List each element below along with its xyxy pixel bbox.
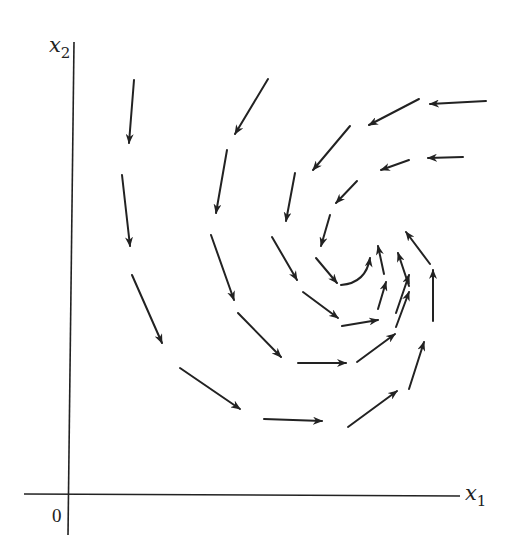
vector-arrow (272, 237, 297, 280)
vector-arrow (341, 258, 370, 285)
vector-arrow (238, 313, 281, 357)
vector-arrow (378, 246, 384, 274)
vector-arrow (378, 282, 386, 309)
vector-arrow (369, 99, 419, 125)
vector-arrow (357, 334, 395, 362)
vector-arrow (313, 126, 350, 170)
origin-label: 0 (52, 505, 62, 526)
vector-arrow (428, 157, 463, 158)
vector-arrow (316, 258, 337, 283)
vector-arrow (303, 292, 338, 318)
vector-arrow (180, 368, 240, 409)
vector-arrow (264, 419, 322, 421)
vector-arrow (216, 150, 227, 213)
vector-arrow (286, 173, 295, 221)
vector-field (122, 79, 486, 427)
phase-portrait: x2 x1 0 (0, 0, 512, 553)
vector-arrow (409, 342, 424, 389)
y-axis-label: x2 (49, 33, 70, 62)
vector-arrow (132, 275, 162, 343)
vector-arrow (342, 320, 378, 326)
vector-arrow (336, 181, 357, 203)
x-axis-label: x1 (465, 481, 486, 510)
vector-arrow (129, 80, 134, 143)
vector-arrow (211, 235, 234, 300)
vector-arrow (381, 160, 409, 170)
vector-arrow (406, 232, 430, 264)
x-axis (24, 494, 460, 496)
y-axis (68, 42, 74, 535)
vector-arrow (430, 101, 486, 104)
vector-arrow (321, 215, 330, 246)
vector-arrow (348, 391, 397, 427)
axes (24, 42, 460, 535)
vector-arrow (122, 175, 130, 246)
vector-arrow (235, 79, 268, 134)
